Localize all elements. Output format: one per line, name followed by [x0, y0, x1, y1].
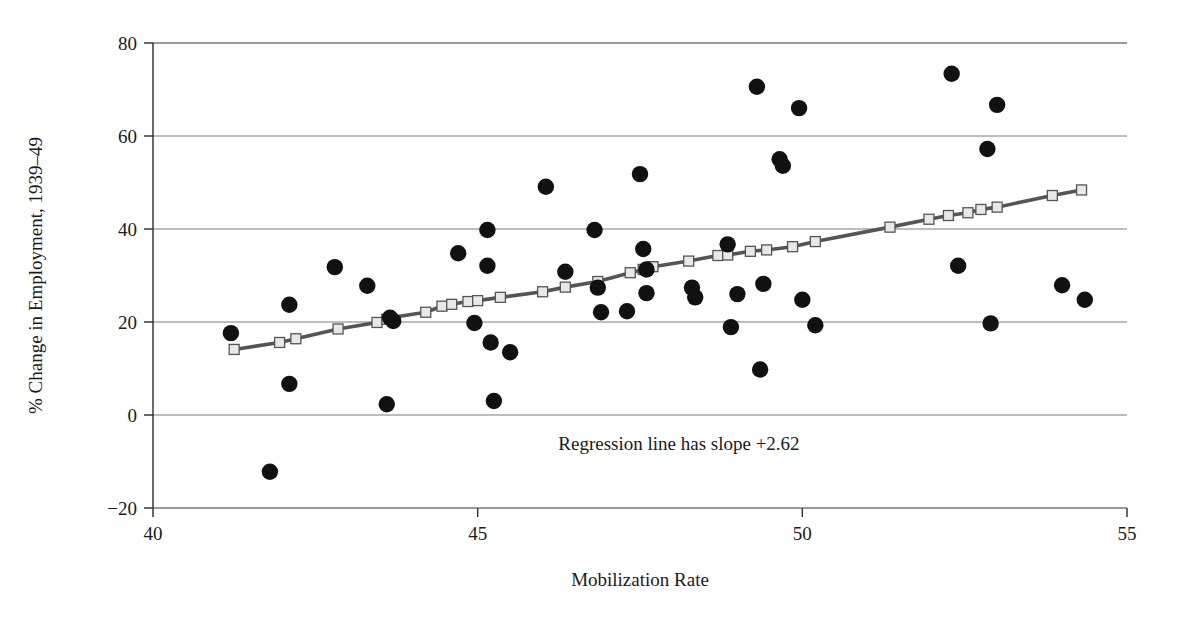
data-point [538, 178, 554, 194]
regression-marker [275, 337, 285, 347]
regression-marker [810, 237, 820, 247]
y-tick-label-60: 60 [118, 126, 137, 147]
data-point [262, 464, 278, 480]
data-point [590, 279, 606, 295]
data-point [466, 315, 482, 331]
data-point [632, 166, 648, 182]
x-axis-title: Mobilization Rate [571, 569, 709, 590]
data-point [638, 261, 654, 277]
data-point [482, 334, 498, 350]
regression-marker [924, 214, 934, 224]
regression-marker [421, 307, 431, 317]
chart-canvas: −20020406080 40455055 Regression line ha… [0, 0, 1185, 618]
regression-marker [963, 208, 973, 218]
regression-marker [788, 242, 798, 252]
data-point [989, 97, 1005, 113]
y-tick-label-40: 40 [118, 219, 137, 240]
data-point [638, 285, 654, 301]
regression-marker [1047, 191, 1057, 201]
data-point [950, 258, 966, 274]
regression-marker [625, 268, 635, 278]
regression-marker [372, 317, 382, 327]
regression-annotation: Regression line has slope +2.62 [558, 433, 799, 454]
x-tick-label-50: 50 [793, 523, 812, 544]
data-point [729, 286, 745, 302]
y-tick-label-0: 0 [128, 405, 138, 426]
data-point [1077, 291, 1093, 307]
x-tick-label-40: 40 [144, 523, 163, 544]
y-tick-label-20: 20 [118, 312, 137, 333]
regression-marker [976, 204, 986, 214]
regression-marker [473, 296, 483, 306]
regression-marker [762, 245, 772, 255]
regression-marker [447, 299, 457, 309]
data-point [687, 289, 703, 305]
regression-marker [943, 211, 953, 221]
regression-marker [437, 301, 447, 311]
data-point [223, 325, 239, 341]
data-point [752, 361, 768, 377]
regression-marker [684, 256, 694, 266]
data-point [619, 303, 635, 319]
data-point [723, 319, 739, 335]
y-tick-label-80: 80 [118, 33, 137, 54]
data-point [502, 344, 518, 360]
data-point [486, 393, 502, 409]
data-point [719, 236, 735, 252]
data-point [775, 158, 791, 174]
regression-marker [713, 251, 723, 261]
data-point [749, 79, 765, 95]
data-point [479, 258, 495, 274]
data-point [557, 264, 573, 280]
regression-marker [745, 246, 755, 256]
x-tick-label-45: 45 [468, 523, 487, 544]
data-point [586, 222, 602, 238]
data-point [1054, 277, 1070, 293]
regression-marker [291, 334, 301, 344]
regression-marker [333, 324, 343, 334]
scatter-chart-figure: −20020406080 40455055 Regression line ha… [0, 0, 1185, 618]
x-tick-label-55: 55 [1118, 523, 1137, 544]
data-point [327, 259, 343, 275]
regression-marker [992, 202, 1002, 212]
data-point [791, 100, 807, 116]
regression-marker [885, 222, 895, 232]
y-axis-title: % Change in Employment, 1939–49 [25, 137, 46, 414]
regression-marker [538, 287, 548, 297]
data-point [593, 304, 609, 320]
data-point [281, 297, 297, 313]
data-point [281, 376, 297, 392]
data-point [379, 396, 395, 412]
data-point [479, 222, 495, 238]
regression-marker [1077, 185, 1087, 195]
data-point [943, 65, 959, 81]
data-point [359, 278, 375, 294]
data-point [635, 241, 651, 257]
regression-marker [229, 344, 239, 354]
data-point [385, 313, 401, 329]
data-point [807, 317, 823, 333]
regression-marker [463, 297, 473, 307]
regression-marker [495, 292, 505, 302]
data-point [982, 315, 998, 331]
data-point [979, 141, 995, 157]
y-tick-label--20: −20 [107, 498, 137, 519]
data-point [794, 291, 810, 307]
chart-background [0, 0, 1185, 618]
regression-marker [560, 282, 570, 292]
data-point [450, 245, 466, 261]
data-point [755, 276, 771, 292]
